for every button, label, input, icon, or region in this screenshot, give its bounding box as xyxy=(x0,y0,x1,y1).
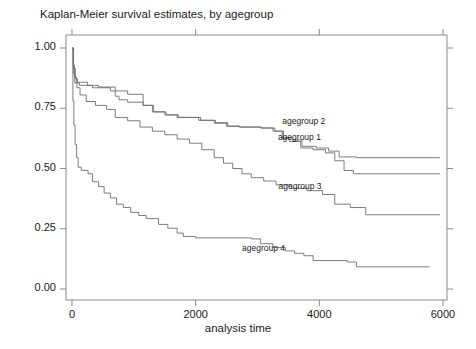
series-annotation: agegroup 3 xyxy=(279,181,322,191)
x-tick-label: 6000 xyxy=(413,308,473,320)
plot-canvas xyxy=(0,0,476,349)
series-annotation: agegroup 4 xyxy=(242,243,285,253)
series-line-2 xyxy=(72,48,440,158)
series-annotation: agegroup 2 xyxy=(282,116,325,126)
x-axis-title: analysis time xyxy=(0,322,476,334)
kaplan-meier-chart: Kaplan-Meier survival estimates, by ageg… xyxy=(0,0,476,349)
x-tick-label: 4000 xyxy=(289,308,349,320)
y-tick-label: 0.25 xyxy=(12,221,56,233)
series-line-1 xyxy=(72,48,440,174)
y-tick-label: 0.50 xyxy=(12,161,56,173)
x-tick-label: 0 xyxy=(42,308,102,320)
y-tick-label: 0.75 xyxy=(12,100,56,112)
y-tick-label: 1.00 xyxy=(12,40,56,52)
y-tick-label: 0.00 xyxy=(12,281,56,293)
series-annotation: agegroup 1 xyxy=(278,132,321,142)
series-line-3 xyxy=(72,48,440,215)
x-tick-label: 2000 xyxy=(166,308,226,320)
